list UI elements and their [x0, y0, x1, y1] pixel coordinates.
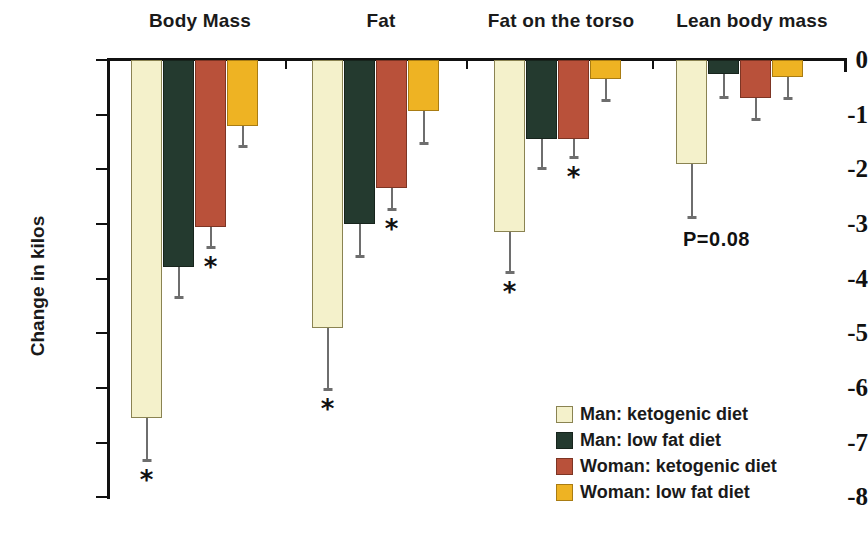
- error-bar-body-mass-man-low-fat-diet: [178, 267, 180, 297]
- bar-fat-woman-ketogenic-diet: [376, 60, 407, 188]
- y-tick-3: [96, 223, 108, 225]
- group-separator-tick-3: [652, 58, 654, 69]
- y-axis-title: Change in kilos: [27, 156, 49, 416]
- group-title-fat: Fat: [366, 10, 395, 32]
- y-tick-label-3: -3: [782, 210, 868, 238]
- error-bar-lean-body-mass-woman-low-fat-diet: [787, 77, 789, 99]
- error-bar-cap-body-mass-man-ketogenic-diet: [142, 459, 151, 462]
- group-title-lean-body-mass: Lean body mass: [676, 10, 828, 32]
- y-tick-label-5: -5: [782, 319, 868, 347]
- legend-label-man-ketogenic-diet: Man: ketogenic diet: [580, 404, 748, 425]
- y-tick-label-8: -8: [782, 483, 868, 511]
- error-bar-lean-body-mass-woman-ketogenic-diet: [755, 98, 757, 120]
- error-bar-body-mass-woman-ketogenic-diet: [210, 227, 212, 249]
- error-bar-body-mass-man-ketogenic-diet: [146, 418, 148, 462]
- y-tick-5: [96, 332, 108, 334]
- bar-lean-body-mass-woman-low-fat-diet: [772, 60, 803, 77]
- legend: Man: ketogenic diet Man: low fat diet Wo…: [556, 404, 777, 503]
- error-bar-cap-lean-body-mass-woman-low-fat-diet: [783, 97, 792, 100]
- y-tick-8: [96, 496, 108, 498]
- error-bar-cap-lean-body-mass-man-ketogenic-diet: [687, 216, 696, 219]
- group-title-body-mass: Body Mass: [149, 10, 251, 32]
- error-bar-cap-fat-on-the-torso-man-low-fat-diet: [537, 167, 546, 170]
- error-bar-lean-body-mass-man-low-fat-diet: [723, 74, 725, 99]
- bar-fat-man-low-fat-diet: [344, 60, 375, 224]
- error-bar-cap-lean-body-mass-woman-ketogenic-diet: [751, 118, 760, 121]
- significance-marker-fat-woman-ketogenic-diet: *: [385, 216, 399, 242]
- bar-body-mass-man-low-fat-diet: [163, 60, 194, 267]
- bar-fat-on-the-torso-man-ketogenic-diet: [494, 60, 525, 232]
- legend-label-woman-low-fat-diet: Woman: low fat diet: [580, 482, 750, 503]
- bar-lean-body-mass-man-ketogenic-diet: [676, 60, 707, 164]
- error-bar-fat-on-the-torso-woman-low-fat-diet: [605, 79, 607, 101]
- error-bar-fat-man-ketogenic-diet: [327, 328, 329, 391]
- legend-label-woman-ketogenic-diet: Woman: ketogenic diet: [580, 456, 777, 477]
- error-bar-lean-body-mass-man-ketogenic-diet: [691, 164, 693, 219]
- error-bar-fat-man-low-fat-diet: [359, 224, 361, 257]
- y-tick-label-7: -7: [782, 429, 868, 457]
- bar-fat-woman-low-fat-diet: [408, 60, 439, 111]
- y-tick-label-6: -6: [782, 374, 868, 402]
- error-bar-cap-fat-man-ketogenic-diet: [323, 388, 332, 391]
- error-bar-fat-on-the-torso-man-ketogenic-diet: [509, 232, 511, 273]
- legend-item-woman-ketogenic-diet[interactable]: Woman: ketogenic diet: [556, 456, 777, 477]
- bar-chart: Body Mass Fat Fat on the torso Lean body…: [0, 0, 868, 547]
- y-tick-label-4: -4: [782, 265, 868, 293]
- legend-item-woman-low-fat-diet[interactable]: Woman: low fat diet: [556, 482, 777, 503]
- significance-marker-body-mass-man-ketogenic-diet: *: [140, 467, 154, 493]
- y-tick-6: [96, 387, 108, 389]
- group-separator-tick-1: [285, 58, 287, 69]
- error-bar-cap-body-mass-woman-low-fat-diet: [238, 145, 247, 148]
- error-bar-cap-fat-on-the-torso-woman-low-fat-diet: [601, 99, 610, 102]
- error-bar-fat-on-the-torso-man-low-fat-diet: [541, 139, 543, 169]
- bar-fat-on-the-torso-woman-ketogenic-diet: [558, 60, 589, 139]
- y-tick-label-2: -2: [782, 155, 868, 183]
- significance-marker-body-mass-woman-ketogenic-diet: *: [204, 254, 218, 280]
- error-bar-cap-fat-man-low-fat-diet: [355, 255, 364, 258]
- legend-swatch-icon-yellow: [556, 484, 573, 501]
- error-bar-cap-fat-woman-ketogenic-diet: [387, 208, 396, 211]
- bar-fat-on-the-torso-man-low-fat-diet: [526, 60, 557, 139]
- bar-lean-body-mass-man-low-fat-diet: [708, 60, 739, 74]
- error-bar-cap-fat-woman-low-fat-diet: [419, 142, 428, 145]
- bar-lean-body-mass-woman-ketogenic-diet: [740, 60, 771, 98]
- bar-fat-man-ketogenic-diet: [312, 60, 343, 328]
- y-tick-4: [96, 278, 108, 280]
- y-tick-label-1: -1: [782, 101, 868, 129]
- error-bar-cap-fat-on-the-torso-woman-ketogenic-diet: [569, 156, 578, 159]
- annotation-p-value: P=0.08: [683, 228, 750, 251]
- bar-body-mass-woman-ketogenic-diet: [195, 60, 226, 227]
- error-bar-cap-body-mass-man-low-fat-diet: [174, 296, 183, 299]
- bar-body-mass-woman-low-fat-diet: [227, 60, 258, 126]
- y-tick-7: [96, 442, 108, 444]
- legend-swatch-icon-green: [556, 432, 573, 449]
- significance-marker-fat-on-the-torso-man-ketogenic-diet: *: [503, 279, 517, 305]
- bar-body-mass-man-ketogenic-diet: [131, 60, 162, 418]
- significance-marker-fat-on-the-torso-woman-ketogenic-diet: *: [567, 164, 581, 190]
- group-separator-tick-2: [466, 58, 468, 69]
- significance-marker-fat-man-ketogenic-diet: *: [321, 396, 335, 422]
- y-tick-0: [96, 59, 108, 61]
- error-bar-fat-woman-ketogenic-diet: [391, 188, 393, 210]
- legend-item-man-ketogenic-diet[interactable]: Man: ketogenic diet: [556, 404, 777, 425]
- error-bar-cap-lean-body-mass-man-low-fat-diet: [719, 96, 728, 99]
- legend-swatch-icon-cream: [556, 406, 573, 423]
- error-bar-body-mass-woman-low-fat-diet: [242, 126, 244, 148]
- error-bar-cap-fat-on-the-torso-man-ketogenic-diet: [505, 271, 514, 274]
- legend-label-man-low-fat-diet: Man: low fat diet: [580, 430, 721, 451]
- y-tick-2: [96, 168, 108, 170]
- y-tick-1: [96, 114, 108, 116]
- group-title-fat-on-the-torso: Fat on the torso: [488, 10, 635, 32]
- legend-item-man-low-fat-diet[interactable]: Man: low fat diet: [556, 430, 777, 451]
- legend-swatch-icon-red: [556, 458, 573, 475]
- bar-fat-on-the-torso-woman-low-fat-diet: [590, 60, 621, 79]
- error-bar-fat-woman-low-fat-diet: [423, 111, 425, 144]
- error-bar-cap-body-mass-woman-ketogenic-diet: [206, 246, 215, 249]
